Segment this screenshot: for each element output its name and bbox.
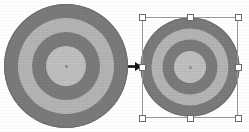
handle-bottom-center[interactable] bbox=[187, 115, 194, 122]
handle-bottom-left[interactable] bbox=[139, 115, 146, 122]
handle-top-right[interactable] bbox=[235, 14, 242, 21]
original-target-object[interactable] bbox=[4, 4, 128, 128]
selection-bounding-box[interactable] bbox=[142, 17, 238, 118]
handle-middle-left[interactable] bbox=[139, 64, 146, 71]
diagram-canvas bbox=[0, 0, 249, 132]
handle-top-center[interactable] bbox=[187, 14, 194, 21]
center-point-source bbox=[65, 65, 68, 68]
handle-bottom-right[interactable] bbox=[235, 115, 242, 122]
handle-middle-right[interactable] bbox=[235, 64, 242, 71]
handle-top-left[interactable] bbox=[139, 14, 146, 21]
